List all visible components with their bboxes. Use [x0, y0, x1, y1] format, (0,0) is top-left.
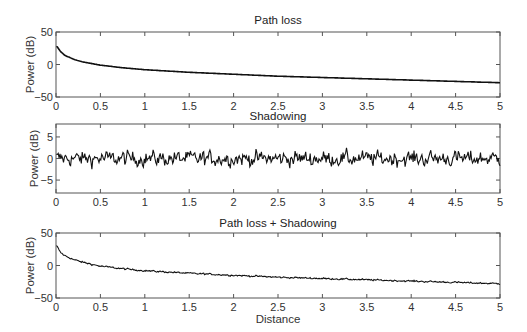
x-tick-label: 3.5 — [359, 196, 374, 208]
x-tick-label: 4 — [408, 301, 414, 313]
x-tick-label: 1 — [142, 196, 148, 208]
x-tick-label: 3.5 — [359, 100, 374, 112]
subplot-title: Path loss + Shadowing — [219, 217, 336, 229]
y-tick-label: 0 — [47, 153, 53, 165]
x-tick-label: 1.5 — [182, 301, 197, 313]
subplot-path-loss-shadowing: Path loss + Shadowing00.511.522.533.544.… — [24, 217, 503, 313]
y-tick-label: 0 — [47, 59, 53, 71]
x-tick-label: 0.5 — [93, 196, 108, 208]
x-tick-label: 4 — [408, 100, 414, 112]
x-tick-label: 4.5 — [448, 100, 463, 112]
x-tick-label: 2 — [231, 301, 237, 313]
y-tick-label: −50 — [34, 91, 53, 103]
chart-figure: Path loss00.511.522.533.544.55−50050Powe… — [0, 0, 527, 332]
x-tick-label: 2 — [231, 196, 237, 208]
y-tick-label: −5 — [40, 174, 53, 186]
x-tick-label: 2 — [231, 100, 237, 112]
x-tick-label: 1.5 — [182, 100, 197, 112]
x-tick-label: 0 — [53, 196, 59, 208]
x-tick-label: 0.5 — [93, 100, 108, 112]
x-tick-label: 3.5 — [359, 301, 374, 313]
subplot-title: Path loss — [254, 14, 302, 26]
x-tick-label: 1.5 — [182, 196, 197, 208]
y-tick-label: −50 — [34, 292, 53, 304]
x-tick-label: 2.5 — [270, 196, 285, 208]
subplot-path-loss: Path loss00.511.522.533.544.55−50050Powe… — [24, 14, 503, 112]
x-tick-label: 1 — [142, 100, 148, 112]
x-tick-label: 0.5 — [93, 301, 108, 313]
axes-box — [56, 233, 500, 298]
axes-box — [56, 32, 500, 97]
data-line — [56, 46, 500, 82]
y-axis-label: Power (dB) — [24, 36, 36, 94]
y-tick-label: 50 — [41, 26, 53, 38]
x-tick-label: 0 — [53, 100, 59, 112]
y-tick-label: 0 — [47, 260, 53, 272]
x-tick-label: 1 — [142, 301, 148, 313]
x-tick-label: 0 — [53, 301, 59, 313]
x-tick-label: 3 — [319, 301, 325, 313]
subplot-shadowing: Shadowing00.511.522.533.544.55−505Power … — [28, 110, 503, 208]
x-tick-label: 4 — [408, 196, 414, 208]
data-line — [56, 246, 500, 285]
x-tick-label: 5 — [497, 301, 503, 313]
y-tick-label: 50 — [41, 227, 53, 239]
x-tick-label: 3 — [319, 196, 325, 208]
y-axis-label: Power (dB) — [24, 237, 36, 295]
x-tick-label: 5 — [497, 100, 503, 112]
x-tick-label: 2.5 — [270, 301, 285, 313]
y-axis-label: Power (dB) — [28, 130, 40, 188]
y-tick-label: 5 — [47, 131, 53, 143]
x-axis-label: Distance — [256, 313, 301, 325]
x-tick-label: 4.5 — [448, 196, 463, 208]
data-line — [56, 148, 500, 169]
x-tick-label: 4.5 — [448, 301, 463, 313]
subplot-title: Shadowing — [250, 110, 307, 122]
x-tick-label: 5 — [497, 196, 503, 208]
x-tick-label: 3 — [319, 100, 325, 112]
